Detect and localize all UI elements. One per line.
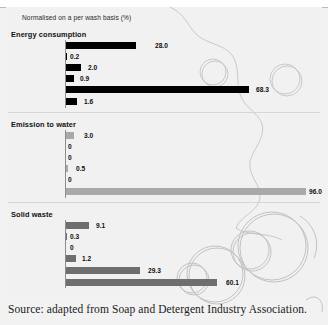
bar [66, 75, 74, 82]
bar-value: 0 [68, 142, 72, 151]
bar-value: 28.0 [155, 41, 168, 50]
section-title-energy: Energy consumption [11, 30, 86, 39]
bar-value: 1.6 [84, 97, 93, 106]
bar-value: 0.3 [70, 232, 79, 241]
axis-solid [65, 220, 66, 288]
section-title-solid: Solid waste [11, 210, 53, 219]
normalisation-note: Normalised on a per wash basis (%) [22, 14, 131, 21]
bar [66, 222, 89, 229]
figure-container: Normalised on a per wash basis (%) Energ… [0, 0, 328, 325]
bar-value: 96.0 [309, 187, 322, 196]
bar-value: 0.5 [76, 164, 85, 173]
bar [66, 267, 140, 274]
section-divider-1 [8, 112, 320, 113]
bar-value: 68.3 [256, 85, 269, 94]
bar [66, 165, 68, 172]
bar [66, 279, 217, 286]
section-title-emission: Emission to water [11, 120, 76, 129]
bar-value: 0 [68, 153, 72, 162]
bar-value: 9.1 [96, 221, 105, 230]
source-caption: Source: adapted from Soap and Detergent … [8, 303, 326, 315]
bar [66, 42, 136, 49]
bar [66, 132, 74, 139]
bar-value: 3.0 [84, 131, 93, 140]
bar-value: 60.1 [226, 278, 239, 287]
bar [66, 188, 306, 195]
bar [66, 255, 76, 262]
bar-value: 0.2 [70, 52, 79, 61]
bar [66, 86, 249, 93]
bar-value: 0 [68, 175, 72, 184]
bar-value: 0 [70, 243, 74, 252]
bar-value: 0.9 [80, 74, 89, 83]
section-divider-2 [8, 202, 320, 203]
bar [66, 98, 77, 105]
bar-value: 1.2 [82, 254, 91, 263]
bar [66, 53, 67, 60]
bar-value: 2.0 [88, 63, 97, 72]
bar [66, 233, 67, 240]
bar-value: 29.3 [148, 266, 161, 275]
bar [66, 64, 81, 71]
